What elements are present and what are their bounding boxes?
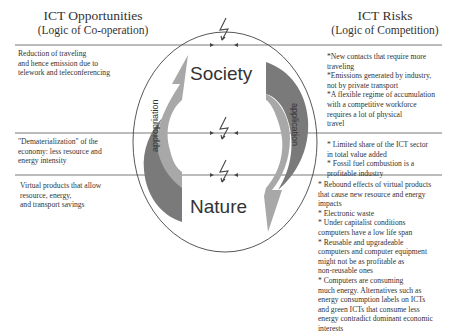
application-arrow (264, 62, 308, 232)
application-label: application (290, 103, 300, 193)
opportunity-item: Reduction of traveling and hence emissio… (18, 49, 138, 78)
opportunity-item: "Dematerialization" of the economy: less… (18, 137, 138, 166)
risk-item: * Rebound effects of virtual products th… (318, 180, 450, 331)
opportunities-header: ICT Opportunities (Logic of Co-operation… (18, 8, 168, 38)
appropriation-label: appropriation (150, 62, 160, 152)
opportunity-item: Virtual products that allow resource, en… (20, 181, 140, 210)
nature-label: Nature (190, 196, 247, 218)
risks-subtitle: (Logic of Competition) (325, 23, 445, 38)
risk-item: * Limited share of the ICT sector in tot… (327, 140, 449, 178)
risks-header: ICT Risks (Logic of Competition) (325, 8, 445, 38)
risk-item: *New contacts that require more travelin… (327, 52, 449, 129)
lightning-icon (220, 160, 228, 182)
society-label: Society (190, 63, 252, 85)
lightning-icon (220, 117, 228, 139)
opportunities-subtitle: (Logic of Co-operation) (18, 23, 168, 38)
opportunities-title: ICT Opportunities (18, 8, 168, 23)
risks-title: ICT Risks (325, 8, 445, 23)
lightning-icon (220, 18, 228, 40)
